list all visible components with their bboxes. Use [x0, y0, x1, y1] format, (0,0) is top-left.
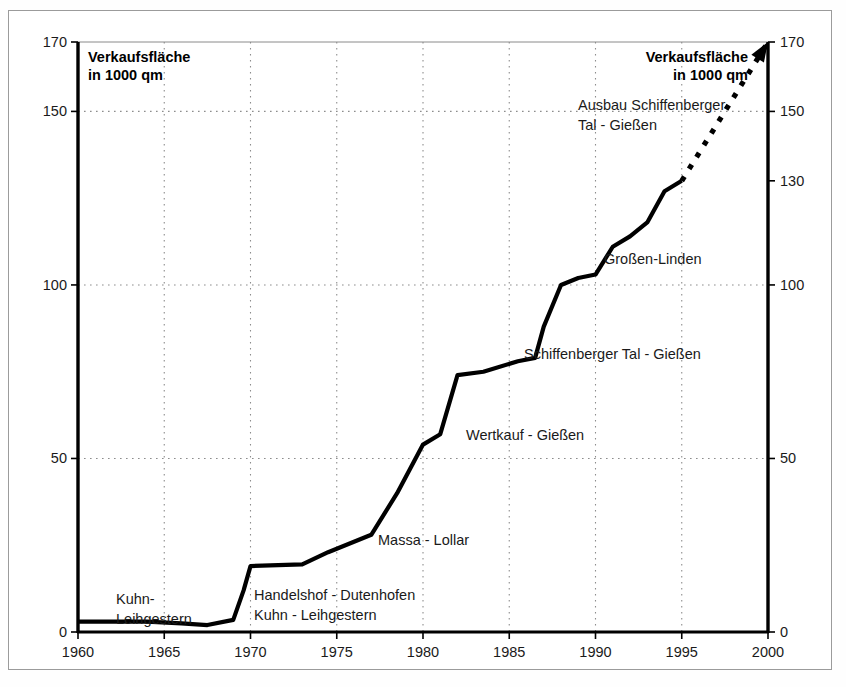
tick-label-x-1975: 1975 — [321, 644, 353, 660]
tick-label-x-1960: 1960 — [62, 644, 94, 660]
projection-arrowhead — [751, 42, 768, 63]
tick-label-left-170: 170 — [43, 34, 67, 50]
axes-group — [71, 42, 775, 639]
line-chart: 1701501005001701501301005001960196519701… — [0, 0, 846, 687]
annotation-kuhn-leihgestern-1-line1: Kuhn- — [116, 591, 155, 607]
annotation-schiffenberger-tal-giessen-line1: Schiffenberger Tal - Gießen — [524, 346, 701, 362]
annotations-group: Kuhn-LeihgesternHandelshof - DutenhofenK… — [116, 97, 725, 627]
right-header-line1: Verkaufsfläche — [646, 49, 748, 65]
tick-label-right-50: 50 — [780, 450, 796, 466]
tick-label-right-170: 170 — [780, 34, 804, 50]
tick-label-left-50: 50 — [51, 450, 67, 466]
tick-label-right-150: 150 — [780, 103, 804, 119]
annotation-handelshof-dutenhofen-line1: Handelshof - Dutenhofen — [254, 587, 415, 603]
left-header-line1: Verkaufsfläche — [88, 49, 190, 65]
tick-label-right-130: 130 — [780, 173, 804, 189]
annotation-kuhn-leihgestern-1-line2: Leihgestern — [116, 611, 192, 627]
tick-label-x-1980: 1980 — [407, 644, 439, 660]
annotation-grossen-linden-line1: Großen-Linden — [604, 251, 702, 267]
tick-label-x-2000: 2000 — [752, 644, 784, 660]
right-header-line2: in 1000 qm — [673, 67, 748, 83]
plot-wrapper: 1701501005001701501301005001960196519701… — [0, 0, 846, 687]
tick-label-right-100: 100 — [780, 277, 804, 293]
tick-label-x-1995: 1995 — [666, 644, 698, 660]
annotation-wertkauf-giessen-line1: Wertkauf - Gießen — [466, 427, 584, 443]
tick-label-left-100: 100 — [43, 277, 67, 293]
annotation-ausbau-schiffenberger-line1: Ausbau Schiffenberger — [578, 97, 725, 113]
tick-label-x-1965: 1965 — [148, 644, 180, 660]
tick-label-left-0: 0 — [59, 624, 67, 640]
tick-label-left-150: 150 — [43, 103, 67, 119]
tick-label-x-1990: 1990 — [579, 644, 611, 660]
tick-label-x-1985: 1985 — [493, 644, 525, 660]
chart-page: 1701501005001701501301005001960196519701… — [0, 0, 846, 687]
annotation-ausbau-schiffenberger-line2: Tal - Gießen — [578, 117, 657, 133]
annotation-massa-lollar-line1: Massa - Lollar — [378, 532, 469, 548]
left-header-line2: in 1000 qm — [88, 67, 163, 83]
annotation-handelshof-dutenhofen-line2: Kuhn - Leihgestern — [254, 607, 377, 623]
tick-label-right-0: 0 — [780, 624, 788, 640]
tick-label-x-1970: 1970 — [234, 644, 266, 660]
series-line-0 — [78, 181, 682, 625]
